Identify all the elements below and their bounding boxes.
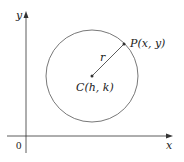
x-axis-arrow-icon [166,134,173,139]
center-point [91,75,94,78]
center-label: C(h, k) [76,81,114,94]
circle-diagram: y x 0 r C(h, k) P(x, y) [0,0,184,162]
origin-label: 0 [16,139,22,151]
y-axis-label: y [15,9,23,22]
radius-line [92,44,124,76]
point-p [123,43,126,46]
x-axis-label: x [166,139,173,152]
y-axis-arrow-icon [24,11,29,18]
radius-label: r [100,51,106,64]
point-label: P(x, y) [129,37,165,50]
